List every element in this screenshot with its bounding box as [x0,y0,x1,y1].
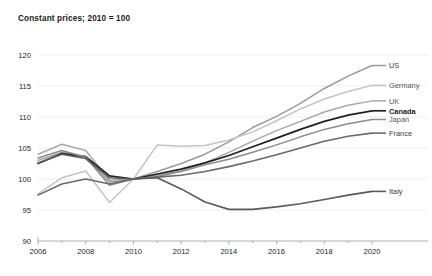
x-tick-label-2014: 2014 [220,247,237,256]
y-tick-label-115: 115 [19,82,31,91]
x-axis-tick-labels: 20062008201020122014201620182020 [30,247,381,256]
series-line-uk [38,101,372,180]
y-tick-label-90: 90 [23,237,31,246]
x-tick-label-2012: 2012 [173,247,190,256]
y-axis-tick-labels: 9095100105110115120 [18,51,31,246]
y-tick-label-95: 95 [23,206,31,215]
line-chart-plot: 9095100105110115120 20062008201020122014… [0,0,432,276]
x-tick-label-2018: 2018 [316,247,333,256]
legend-label-us: US [389,61,399,70]
series-endpoint-legend: USGermanyUKCanadaJapanFranceItaly [372,61,420,196]
series-line-germany [38,85,372,202]
legend-label-italy: Italy [389,187,403,196]
gridlines-group [38,55,428,210]
y-tick-label-110: 110 [19,113,31,122]
chart-figure: Constant prices; 2010 = 100 909510010511… [0,0,432,276]
x-tick-label-2006: 2006 [30,247,47,256]
axis-lines [38,238,428,245]
legend-label-france: France [389,129,412,138]
legend-label-germany: Germany [389,81,420,90]
legend-label-uk: UK [389,97,399,106]
x-tick-label-2010: 2010 [125,247,142,256]
legend-label-japan: Japan [389,115,409,124]
legend-label-canada: Canada [389,107,417,116]
x-tick-label-2008: 2008 [77,247,94,256]
x-tick-label-2020: 2020 [364,247,381,256]
y-tick-label-105: 105 [18,144,31,153]
x-tick-label-2016: 2016 [268,247,285,256]
y-tick-label-120: 120 [18,51,31,60]
y-tick-label-100: 100 [18,175,31,184]
data-series-group [38,66,372,210]
